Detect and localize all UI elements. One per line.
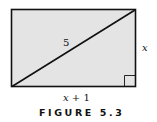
- side-label: x: [142, 42, 148, 53]
- figure-caption: FIGURE 5.3: [39, 107, 124, 118]
- diagonal-label: 5: [63, 37, 69, 48]
- bottom-label-rest: + 1: [69, 92, 90, 103]
- figure-diagram: 5 x x + 1 FIGURE 5.3: [0, 0, 157, 122]
- bottom-label: x + 1: [63, 92, 90, 103]
